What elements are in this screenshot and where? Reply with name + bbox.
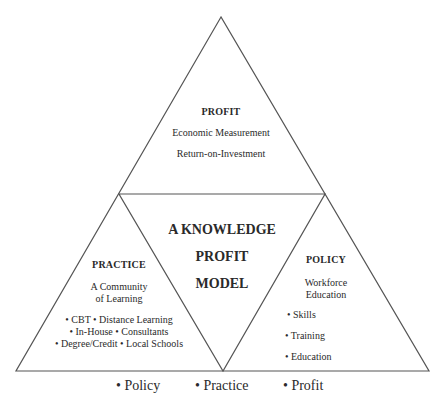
footer-profit: • Profit	[283, 378, 323, 394]
model-title-line-1: A KNOWLEDGE	[152, 222, 292, 238]
profit-line-2: Return-on-Investment	[141, 148, 301, 159]
model-title-line-3: MODEL	[152, 276, 292, 292]
policy-heading: POLICY	[276, 254, 376, 265]
practice-heading: PRACTICE	[69, 259, 169, 270]
practice-bullets-1: • CBT • Distance Learning	[39, 314, 199, 325]
policy-bullet-skills: • Skills	[287, 309, 316, 320]
practice-bullets-3: • Degree/Credit • Local Schools	[29, 338, 209, 349]
profit-heading: PROFIT	[171, 106, 271, 117]
profit-line-1: Economic Measurement	[141, 127, 301, 138]
policy-bullet-education: • Education	[285, 351, 332, 362]
model-title-line-2: PROFIT	[152, 249, 292, 265]
practice-bullets-2: • In-House • Consultants	[39, 326, 199, 337]
footer-policy: • Policy	[116, 378, 160, 394]
policy-subtitle-2: Education	[276, 289, 376, 300]
policy-bullet-training: • Training	[285, 330, 325, 341]
footer-practice: • Practice	[195, 378, 248, 394]
practice-subtitle-1: A Community	[69, 281, 169, 292]
practice-subtitle-2: of Learning	[69, 293, 169, 304]
policy-subtitle-1: Workforce	[276, 277, 376, 288]
